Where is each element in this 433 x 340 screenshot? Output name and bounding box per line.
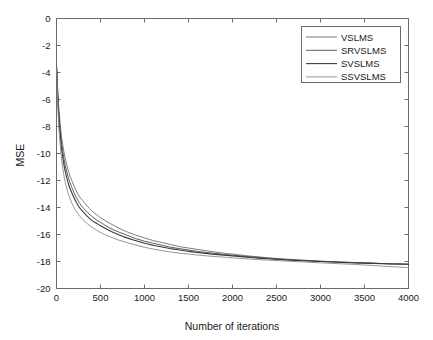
x-tick-label-8: 4000: [398, 292, 419, 303]
y-tick-label-6: -12: [37, 175, 51, 186]
y-tick-label-4: -8: [42, 121, 50, 132]
x-tick-label-7: 3500: [354, 292, 375, 303]
y-tick-label-5: -10: [37, 148, 51, 159]
series-line-ssvslms: [57, 67, 409, 267]
legend-label-vslms: VSLMS: [341, 32, 373, 43]
x-tick-label-4: 2000: [222, 292, 243, 303]
legend-label-ssvslms: SSVSLMS: [341, 71, 386, 82]
y-tick-label-1: -2: [42, 40, 50, 51]
series-line-vslms: [57, 64, 409, 264]
legend: VSLMSSRVSLMSSVSLMSSSVSLMS: [302, 27, 401, 83]
y-tick-label-2: -4: [42, 67, 50, 78]
series-line-svslms: [57, 66, 409, 264]
y-tick-label-10: -20: [37, 283, 51, 294]
x-tick-label-3: 1500: [178, 292, 199, 303]
y-axis-title: MSE: [14, 144, 26, 167]
y-tick-label-8: -16: [37, 229, 51, 240]
y-tick-label-9: -18: [37, 256, 51, 267]
legend-label-svslms: SVSLMS: [341, 58, 380, 69]
x-axis-title: Number of iterations: [185, 320, 280, 332]
y-tick-label-3: -6: [42, 94, 50, 105]
x-tick-label-1: 500: [93, 292, 109, 303]
y-axis-tick-labels: 0-2-4-6-8-10-12-14-16-18-20: [37, 13, 51, 294]
x-tick-label-5: 2500: [266, 292, 287, 303]
figure-canvas: 05001000150020002500300035004000 0-2-4-6…: [0, 0, 433, 340]
x-axis-tick-labels: 05001000150020002500300035004000: [54, 292, 419, 303]
y-tick-label-7: -14: [37, 202, 51, 213]
y-tick-label-0: 0: [45, 13, 50, 24]
mse-convergence-chart: 05001000150020002500300035004000 0-2-4-6…: [0, 0, 433, 340]
data-series-group: [57, 64, 409, 267]
series-line-srvslms: [57, 66, 409, 264]
x-tick-label-0: 0: [54, 292, 59, 303]
x-tick-label-2: 1000: [134, 292, 155, 303]
x-tick-label-6: 3000: [310, 292, 331, 303]
legend-label-srvslms: SRVSLMS: [341, 45, 386, 56]
